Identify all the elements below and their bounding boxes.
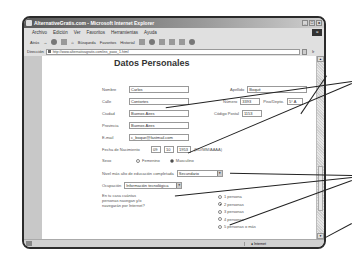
ocupacion-label: Ocupación <box>102 183 121 188</box>
address-label: Dirección <box>27 49 44 54</box>
title-bar: AlternativeGratis.com - Microsoft Intern… <box>24 18 324 28</box>
search-button[interactable]: Búsqueda <box>78 40 96 45</box>
radio-label: 3 personas <box>224 209 244 214</box>
callout-line <box>325 223 352 238</box>
radio-dot[interactable] <box>218 202 222 206</box>
edit-icon[interactable] <box>159 39 165 45</box>
navegan-option-5[interactable]: 5 personas o más <box>218 224 256 229</box>
sexo-femenino-radio[interactable]: Femenino <box>136 158 160 163</box>
educacion-select[interactable]: Secundario ▼ <box>177 170 223 177</box>
maximize-button[interactable]: □ <box>309 20 315 26</box>
radio-dot[interactable] <box>218 195 222 199</box>
menu-herramientas[interactable]: Herramientas <box>111 30 138 35</box>
educacion-label: Nivel más alto de educación completada <box>102 171 174 176</box>
radio-label: Femenino <box>142 158 160 163</box>
zone-label: Internet <box>254 242 266 246</box>
nombre-label: Nombre <box>102 87 126 92</box>
go-button[interactable]: Ir <box>312 49 322 54</box>
navegan-options: 1 persona 2 personas 3 personas 4 person… <box>218 194 256 229</box>
ciudad-input[interactable]: Buenos Aires <box>129 110 189 117</box>
ocupacion-select[interactable]: Información tecnológica ▼ <box>124 182 182 189</box>
fecha-dd-input[interactable]: 09 <box>151 146 161 153</box>
piso-label: Piso/Depto. <box>263 99 284 104</box>
provincia-input[interactable]: Buenos Aires <box>129 122 189 129</box>
menu-favoritos[interactable]: Favoritos <box>87 30 106 35</box>
address-bar: Dirección http://www.alternativagratis.c… <box>24 47 324 56</box>
scroll-up-icon[interactable]: ▲ <box>317 56 324 62</box>
stop-icon[interactable] <box>51 39 57 45</box>
apellido-label: Apellido <box>230 87 244 92</box>
content-area: Datos Personales Nombre Carlos Apellido … <box>24 56 324 239</box>
codigo-postal-label: Código Postal <box>214 111 239 116</box>
chevron-down-icon[interactable]: ▼ <box>176 183 181 188</box>
forward-icon[interactable]: → <box>43 40 47 45</box>
sexo-label: Sexo <box>102 158 126 163</box>
menu-edicion[interactable]: Edición <box>53 30 68 35</box>
radio-label: 1 persona <box>224 194 242 199</box>
home-icon[interactable]: ⌂ <box>71 40 73 45</box>
status-bar: ● Internet <box>24 239 324 247</box>
window-title: AlternativeGratis.com - Microsoft Intern… <box>34 20 302 26</box>
fecha-label: Fecha de Nacimiento <box>102 147 148 152</box>
sexo-masculino-radio[interactable]: Masculino <box>170 158 194 163</box>
menu-ver[interactable]: Ver <box>74 30 81 35</box>
back-button[interactable]: Atrás <box>30 40 39 45</box>
discuss-icon[interactable] <box>169 39 175 45</box>
numero-input[interactable]: 3393 <box>240 98 260 105</box>
radio-label: Masculino <box>176 158 194 163</box>
menu-archivo[interactable]: Archivo <box>32 30 47 35</box>
calle-label: Calle <box>102 99 126 104</box>
web-page: Datos Personales Nombre Carlos Apellido … <box>42 56 316 239</box>
provincia-label: Provincia <box>102 123 126 128</box>
ie-icon <box>26 20 32 26</box>
educacion-value: Secundario <box>179 171 199 176</box>
globe-icon: ● <box>251 242 253 246</box>
page-icon <box>26 241 32 246</box>
codigo-postal-input[interactable]: 1153 <box>242 110 262 117</box>
messenger-icon[interactable] <box>179 39 185 45</box>
question-line: navegarán por Internet? <box>102 203 145 208</box>
calle-input[interactable]: Contortes <box>129 98 189 105</box>
internet-zone: ● Internet <box>244 242 284 246</box>
chevron-down-icon[interactable]: ▼ <box>217 171 222 176</box>
radio-dot[interactable] <box>170 159 174 163</box>
navegan-option-1[interactable]: 1 persona <box>218 194 256 199</box>
navegan-option-3[interactable]: 3 personas <box>218 209 256 214</box>
navegan-question: En tu casa cuántas personas navegan y/o … <box>102 193 145 208</box>
ocupacion-value: Información tecnológica <box>126 183 168 188</box>
radio-dot[interactable] <box>136 159 140 163</box>
history-button[interactable]: Historial <box>120 40 134 45</box>
favorites-button[interactable]: Favoritos <box>100 40 116 45</box>
media-icon[interactable] <box>189 39 195 45</box>
fecha-mm-input[interactable]: 10 <box>164 146 174 153</box>
page-title: Datos Personales <box>114 58 190 68</box>
windows-logo-icon: ⊞ <box>312 29 322 36</box>
refresh-icon[interactable] <box>61 39 67 45</box>
mail-icon[interactable] <box>139 39 145 45</box>
url-input[interactable]: http://www.alternativagratis.com/ins_pas… <box>46 49 300 55</box>
radio-dot[interactable] <box>218 217 222 221</box>
close-button[interactable]: x <box>316 20 322 26</box>
toolbar: Atrás → ⌂ Búsqueda Favoritos Historial <box>24 37 324 47</box>
minimize-button[interactable]: _ <box>302 20 308 26</box>
radio-label: 2 personas <box>224 202 244 207</box>
email-label: E-mail <box>102 135 126 140</box>
menu-bar: Archivo Edición Ver Favoritos Herramient… <box>24 28 324 37</box>
navegan-option-2[interactable]: 2 personas <box>218 202 256 207</box>
address-dropdown-icon[interactable] <box>302 49 307 55</box>
browser-window: AlternativeGratis.com - Microsoft Intern… <box>22 16 326 249</box>
left-margin <box>24 56 42 239</box>
radio-dot[interactable] <box>218 225 222 229</box>
menu-ayuda[interactable]: Ayuda <box>144 30 157 35</box>
nombre-input[interactable]: Carlos <box>129 86 189 93</box>
print-icon[interactable] <box>149 39 155 45</box>
scroll-thumb[interactable] <box>318 166 323 211</box>
email-input[interactable]: c_boque@fastmail.com <box>129 134 189 141</box>
radio-dot[interactable] <box>218 210 222 214</box>
ciudad-label: Ciudad <box>102 111 126 116</box>
